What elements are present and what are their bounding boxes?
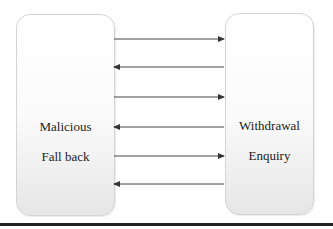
bottom-rule [0,223,333,226]
arrows-layer [0,0,333,229]
